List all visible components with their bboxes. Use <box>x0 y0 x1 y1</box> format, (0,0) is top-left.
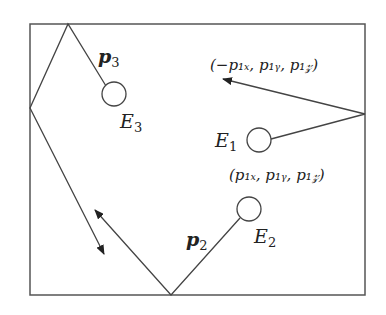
trajectory-p2 <box>95 210 240 295</box>
label-e2: E2 <box>253 225 276 250</box>
reflection-diagram: p3 E3 E1 E2 p2 (−p₁ₓ, p₁ᵧ, p₁𝓏) (p₁ₓ, p₁… <box>0 0 386 315</box>
trajectory-p3 <box>30 24 106 254</box>
detector-e3 <box>102 82 126 106</box>
detector-e1 <box>247 128 271 152</box>
trajectory-p1 <box>223 79 365 139</box>
detector-e2 <box>237 197 261 221</box>
label-reflected-momentum: (−p₁ₓ, p₁ᵧ, p₁𝓏) <box>210 56 318 74</box>
label-p2: p2 <box>186 228 208 253</box>
label-p3: p3 <box>98 45 120 70</box>
label-e1: E1 <box>214 129 237 154</box>
label-e3: E3 <box>119 110 142 135</box>
label-original-momentum: (p₁ₓ, p₁ᵧ, p₁𝓏) <box>229 166 325 184</box>
